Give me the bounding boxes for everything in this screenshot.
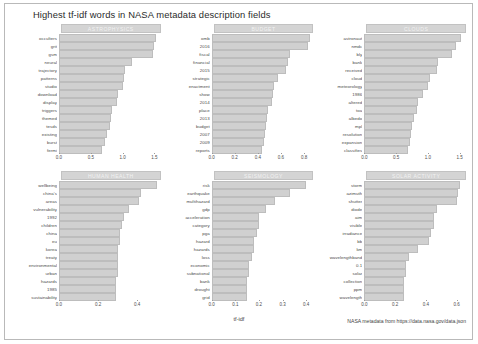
bar-slot <box>364 130 466 138</box>
bar-slot <box>59 181 161 189</box>
y-tick-label: subnational <box>167 269 210 277</box>
facet-strip: SEISMOLOGY <box>214 171 314 180</box>
bar <box>364 229 430 236</box>
x-tick-label: 0.2 <box>256 302 262 307</box>
bar-slot <box>59 269 161 277</box>
bar <box>364 58 438 65</box>
y-axis-labels: stormazimuthshutterdiodeaimvisibleirradi… <box>319 181 364 301</box>
y-tick-label: km <box>319 245 362 253</box>
bar-series <box>212 34 314 154</box>
bar <box>364 213 433 220</box>
y-tick-label: bank <box>167 277 210 285</box>
x-tick-label: 1.5 <box>151 155 157 160</box>
facet-strip: BUDGET <box>214 24 314 33</box>
bar <box>212 229 257 236</box>
bar-slot <box>212 58 314 66</box>
bar-slot <box>212 74 314 82</box>
bar <box>212 253 252 260</box>
x-axis: 0.00.51.01.5 <box>364 154 466 165</box>
bar <box>364 245 418 252</box>
x-tick-label: 0.5 <box>393 155 399 160</box>
tfidf-facet-chart: Highest tf-idf words in NASA metadata de… <box>0 0 478 344</box>
bar-slot <box>212 229 314 237</box>
bar-series <box>364 34 466 154</box>
bar-slot <box>212 106 314 114</box>
bar-slot <box>212 205 314 213</box>
bar-slot <box>59 237 161 245</box>
bar-slot <box>364 122 466 130</box>
x-axis: 0.00.20.40.60.8 <box>212 154 314 165</box>
y-tick-label: received <box>319 66 362 74</box>
bar <box>212 269 250 276</box>
bar <box>59 90 118 97</box>
bar-slot <box>364 34 466 42</box>
bar <box>364 261 406 268</box>
bar <box>212 58 288 65</box>
x-tick-mark <box>212 300 213 302</box>
bar-slot <box>212 285 314 293</box>
y-tick-label: treaty <box>14 253 57 261</box>
y-tick-label: mpl <box>319 122 362 130</box>
bar <box>212 42 308 49</box>
bar <box>364 293 404 300</box>
x-tick-mark <box>395 300 396 302</box>
bar-slot <box>59 138 161 146</box>
bar-series <box>364 181 466 301</box>
bar-slot <box>212 197 314 205</box>
x-tick-label: 1.0 <box>425 155 431 160</box>
bar-slot <box>212 34 314 42</box>
x-tick-label: 1.5 <box>457 155 463 160</box>
facet-solar-activity: SOLAR ACTIVITYstormazimuthshutterdiodeai… <box>319 171 466 312</box>
bar-slot <box>364 221 466 229</box>
bar-slot <box>212 261 314 269</box>
bar <box>59 213 124 220</box>
bar-slot <box>59 205 161 213</box>
x-tick-label: 0.2 <box>232 155 238 160</box>
bar <box>364 82 428 89</box>
facet-strip: HUMAN HEALTH <box>61 171 161 180</box>
facet-strip: SOLAR ACTIVITY <box>366 171 466 180</box>
bar <box>59 293 116 300</box>
facet-astrophysics: ASTROPHYSICSoccultersgritgsmneuraltrajec… <box>14 24 161 165</box>
facet-panel: riskearthquakemultihazardgdpacceleration… <box>167 181 314 301</box>
y-tick-label: astronaut <box>319 34 362 42</box>
x-tick-mark <box>123 153 124 155</box>
page-title: Highest tf-idf words in NASA metadata de… <box>33 9 270 20</box>
bar-slot <box>212 130 314 138</box>
bar-slot <box>212 293 314 301</box>
y-tick-label: gsm <box>14 50 57 58</box>
bar-slot <box>212 146 314 154</box>
facet-panel: omb2016fiscalfinancial2015strategicenact… <box>167 34 314 154</box>
bar-slot <box>212 221 314 229</box>
y-tick-label: existing <box>14 130 57 138</box>
y-tick-label: bb <box>319 237 362 245</box>
bar-slot <box>364 42 466 50</box>
y-tick-label: vulnerability <box>14 205 57 213</box>
bar <box>364 189 458 196</box>
bar-slot <box>212 189 314 197</box>
x-tick-label: 0.4 <box>423 302 429 307</box>
y-tick-label: budget <box>167 122 210 130</box>
bar <box>212 285 247 292</box>
facet-strip: ASTROPHYSICS <box>61 24 161 33</box>
bar-slot <box>364 66 466 74</box>
bar-slot <box>212 245 314 253</box>
x-axis: 0.00.20.4 <box>59 301 161 312</box>
y-tick-label: irradiance <box>319 229 362 237</box>
y-tick-label: visible <box>319 221 362 229</box>
bar <box>59 205 129 212</box>
y-tick-label: areas <box>14 197 57 205</box>
bar <box>212 181 307 188</box>
bar <box>59 253 118 260</box>
bar <box>212 261 250 268</box>
x-tick-label: 0.4 <box>303 302 309 307</box>
y-tick-label: azimuth <box>319 189 362 197</box>
facet-clouds: CLOUDSastronautnmdcblybankreceivedcloudm… <box>319 24 466 165</box>
bar <box>212 189 290 196</box>
bar-slot <box>59 82 161 90</box>
bar-slot <box>364 106 466 114</box>
bar-slot <box>59 221 161 229</box>
bar-slot <box>364 114 466 122</box>
x-tick-label: 0.6 <box>278 155 284 160</box>
y-tick-label: earthquake <box>167 189 210 197</box>
